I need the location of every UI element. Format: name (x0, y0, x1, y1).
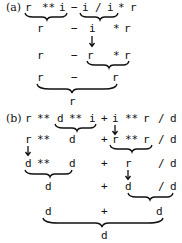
brace-icon (80, 13, 118, 20)
arrow-down-icon (113, 125, 118, 135)
brace-icon (37, 84, 117, 93)
brace-icon (25, 13, 67, 20)
arrow-down-icon (26, 146, 31, 156)
brace-icon (110, 145, 152, 152)
brace-icon (43, 218, 163, 227)
brace-icon (128, 193, 173, 200)
type-reduction-diagram: (a) r ** i − i / i * r r − i * r r − r *… (0, 0, 182, 243)
reduction-braces-and-arrows (0, 0, 182, 243)
brace-icon (87, 61, 129, 68)
brace-icon (25, 170, 72, 177)
arrow-down-icon (90, 36, 95, 47)
brace-icon (55, 124, 96, 131)
arrow-down-icon (126, 170, 131, 180)
